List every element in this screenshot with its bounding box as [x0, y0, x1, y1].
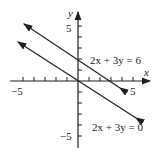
equation-label-2: 2x + 3y = 0	[92, 121, 143, 133]
graph: x y −5 5 5 −5 2x + 3y = 6 2x + 3y = 0	[0, 0, 168, 155]
y-neg-label: −5	[60, 130, 72, 142]
y-axis-label: y	[67, 7, 73, 19]
y-pos-label: 5	[66, 22, 72, 34]
x-neg-label: −5	[11, 85, 23, 97]
x-pos-label: 5	[130, 85, 136, 97]
equation-label-1: 2x + 3y = 6	[90, 54, 141, 66]
x-axis-label: x	[143, 66, 149, 78]
